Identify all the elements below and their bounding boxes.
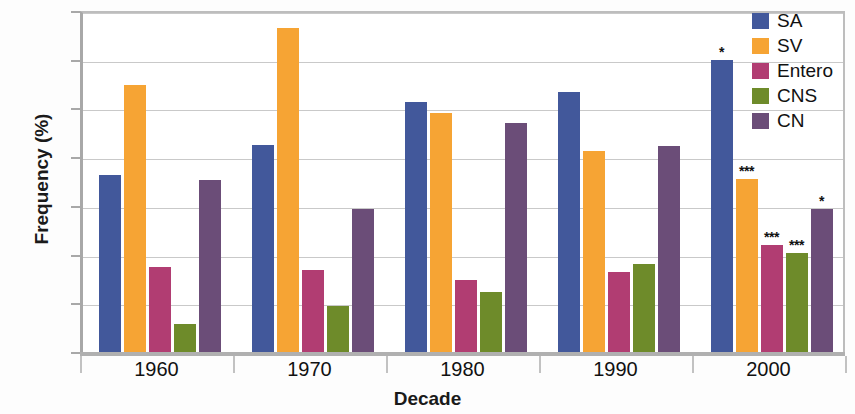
significance-marker: *** — [739, 166, 754, 177]
bar-entero-1960 — [149, 267, 171, 352]
y-tick-mark — [71, 352, 80, 354]
bar-sv-2000: *** — [736, 179, 758, 352]
legend-swatch-icon — [752, 113, 769, 129]
bar-cn-1990 — [658, 146, 680, 352]
bar-cns-1960 — [174, 324, 196, 352]
bar-group — [83, 11, 236, 352]
bar-group — [389, 11, 542, 352]
legend-item-cns: CNS — [752, 85, 833, 107]
legend-label: Entero — [777, 60, 833, 82]
y-tick-mark — [71, 157, 80, 159]
y-tick-mark — [71, 303, 80, 305]
significance-marker: *** — [764, 232, 779, 243]
bar-sa-1970 — [252, 145, 274, 352]
bar-entero-2000: *** — [761, 245, 783, 352]
bar-group — [236, 11, 389, 352]
y-tick-mark — [71, 11, 80, 13]
bar-cns-1980 — [480, 292, 502, 352]
plot-area: *********** — [80, 11, 845, 352]
bar-sa-1960 — [99, 175, 121, 352]
x-tick-mark — [539, 356, 541, 373]
y-tick-mark — [71, 60, 80, 62]
bar-entero-1990 — [608, 272, 630, 352]
legend-swatch-icon — [752, 38, 769, 54]
x-tick-label: 2000 — [709, 358, 829, 381]
bar-sa-1990 — [558, 92, 580, 352]
legend-swatch-icon — [752, 88, 769, 104]
significance-marker: *** — [789, 240, 804, 251]
bar-sv-1980 — [430, 113, 452, 352]
legend-item-cn: CN — [752, 110, 833, 132]
bar-sv-1990 — [583, 151, 605, 352]
y-tick-mark — [71, 108, 80, 110]
y-axis-title: Frequency (%) — [31, 59, 53, 299]
x-tick-mark — [692, 356, 694, 373]
bar-cn-1970 — [352, 209, 374, 352]
legend-swatch-icon — [752, 63, 769, 79]
legend-item-sv: SV — [752, 35, 833, 57]
x-tick-label: 1990 — [556, 358, 676, 381]
significance-marker: * — [819, 196, 824, 207]
legend-item-sa: SA — [752, 10, 833, 32]
x-tick-label: 1980 — [403, 358, 523, 381]
bar-cns-1990 — [633, 264, 655, 352]
x-tick-mark — [386, 356, 388, 373]
bar-sa-1980 — [405, 102, 427, 352]
bar-cn-2000: * — [811, 209, 833, 352]
bar-cn-1960 — [199, 180, 221, 352]
x-tick-label: 1960 — [97, 358, 217, 381]
x-axis-line — [80, 352, 845, 356]
legend-swatch-icon — [752, 13, 769, 29]
bar-sa-2000: * — [711, 60, 733, 352]
legend-label: SA — [777, 10, 802, 32]
bar-cns-1970 — [327, 306, 349, 352]
significance-marker: * — [719, 47, 724, 58]
bar-cn-1980 — [505, 123, 527, 352]
legend-label: SV — [777, 35, 802, 57]
y-tick-mark — [71, 255, 80, 257]
legend: SASVEnteroCNSCN — [752, 10, 833, 132]
legend-label: CN — [777, 110, 804, 132]
x-tick-mark — [845, 356, 847, 373]
x-tick-mark — [233, 356, 235, 373]
legend-label: CNS — [777, 85, 817, 107]
y-tick-mark — [71, 206, 80, 208]
x-tick-mark — [80, 356, 82, 373]
bar-entero-1970 — [302, 270, 324, 352]
bar-sv-1970 — [277, 28, 299, 352]
bar-chart-figure: Frequency (%) 05101520253035 ***********… — [0, 0, 855, 414]
bar-sv-1960 — [124, 85, 146, 352]
x-axis-title: Decade — [0, 388, 855, 410]
bar-cns-2000: *** — [786, 253, 808, 352]
x-tick-label: 1970 — [250, 358, 370, 381]
bar-entero-1980 — [455, 280, 477, 352]
bar-group — [542, 11, 695, 352]
legend-item-entero: Entero — [752, 60, 833, 82]
